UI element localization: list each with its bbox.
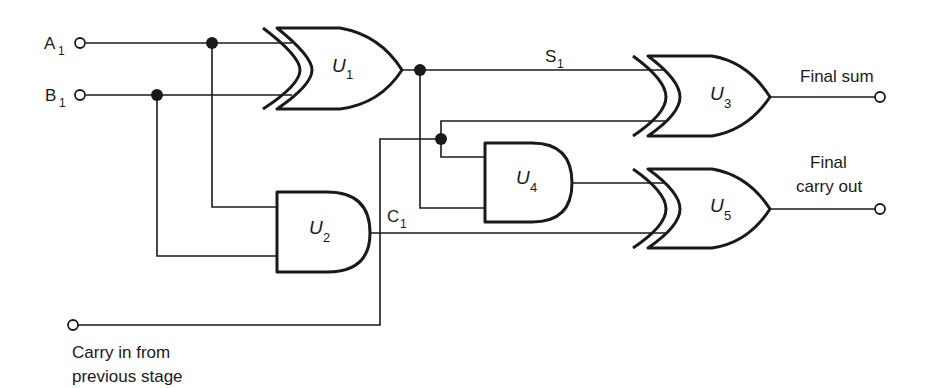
terminal-b1 xyxy=(75,90,85,100)
full-adder-diagram: U 1 U 2 U 3 U 4 U 5 xyxy=(0,0,939,388)
gate-u1-label: U xyxy=(332,55,346,76)
gate-u5-sub: 5 xyxy=(724,208,731,223)
gate-u4-label: U xyxy=(516,167,530,188)
wire-carry-in xyxy=(78,139,441,325)
input-a-sub: 1 xyxy=(58,44,65,58)
final-sum-label: Final sum xyxy=(800,67,874,86)
gate-u3-label: U xyxy=(710,83,724,104)
final-carry-label-line2: carry out xyxy=(796,177,862,196)
carry-in-label-line1: Carry in from xyxy=(72,343,170,362)
junction-a1 xyxy=(206,37,218,49)
gate-u4-and: U 4 xyxy=(485,143,572,222)
terminal-final-sum xyxy=(875,92,885,102)
signal-s1-sub: 1 xyxy=(557,57,564,71)
gate-u5-xor: U 5 xyxy=(633,169,770,248)
gate-u4-sub: 4 xyxy=(530,180,537,195)
input-b-label: B xyxy=(45,86,56,105)
final-carry-label-line1: Final xyxy=(810,153,847,172)
gate-u3-sub: 3 xyxy=(724,96,731,111)
gate-u1-sub: 1 xyxy=(346,67,353,82)
signal-s1-label: S xyxy=(545,47,556,66)
terminals xyxy=(68,38,885,330)
signal-c1-sub: 1 xyxy=(400,217,407,231)
signal-c1-label: C xyxy=(387,207,399,226)
wire-a1-to-u2 xyxy=(212,43,278,207)
input-b-sub: 1 xyxy=(59,96,66,110)
junction-carry-in xyxy=(435,133,447,145)
input-a-label: A xyxy=(44,34,56,53)
gate-u5-label: U xyxy=(710,195,724,216)
gate-u3-xor: U 3 xyxy=(633,56,770,136)
junction-b1 xyxy=(151,89,163,101)
wire-b1-to-u2 xyxy=(157,95,278,256)
terminal-final-carry xyxy=(875,204,885,214)
carry-in-label-line2: previous stage xyxy=(72,367,183,386)
gate-u2-sub: 2 xyxy=(323,230,330,245)
wire-cin-to-u4 xyxy=(441,139,487,157)
junction-s1 xyxy=(414,64,426,76)
gate-u2-label: U xyxy=(309,217,323,238)
terminal-a1 xyxy=(75,38,85,48)
gate-u1-xor: U 1 xyxy=(263,28,402,109)
gate-u2-and: U 2 xyxy=(277,192,370,272)
terminal-carry-in xyxy=(68,320,78,330)
